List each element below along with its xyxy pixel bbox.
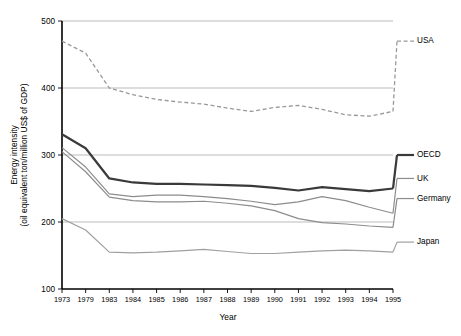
chart-legend: USAOECDUKGermanyJapan [393, 36, 452, 252]
x-tick-label: 1992 [314, 295, 330, 304]
legend-label-japan: Japan [417, 237, 440, 246]
legend-label-germany: Germany [417, 194, 452, 203]
x-tick-label: 1991 [290, 295, 306, 304]
x-tick-label: 1983 [101, 295, 117, 304]
x-tick-label: 1985 [148, 295, 164, 304]
x-tick-label: 1987 [196, 295, 212, 304]
x-tick-label: 1988 [219, 295, 235, 304]
y-tick-label: 200 [41, 218, 55, 227]
x-axis-title: Year [220, 312, 237, 322]
y-tick-label: 100 [41, 285, 55, 294]
x-tick-label: 1993 [338, 295, 354, 304]
y-tick-label: 400 [41, 84, 55, 93]
x-tick-label: 1986 [172, 295, 188, 304]
y-axis-title-line2: (oil equivalent ton/million US$ of GDP) [19, 83, 29, 226]
y-axis-title-line1: Energy intensity [9, 124, 19, 184]
y-tick-label: 500 [41, 17, 55, 26]
x-tick-label: 1984 [125, 295, 141, 304]
legend-label-uk: UK [417, 174, 429, 183]
x-tick-label: 1995 [385, 295, 401, 304]
x-axis-ticks: 1973197919831984198519861987198819891990… [54, 289, 401, 304]
energy-intensity-chart: 100200300400500 197319791983198419851986… [0, 0, 461, 336]
series-line-oecd [62, 134, 393, 191]
x-tick-label: 1989 [243, 295, 259, 304]
series-line-usa [62, 41, 393, 116]
legend-connector-japan [393, 242, 397, 252]
x-tick-label: 1994 [361, 295, 377, 304]
gridlines [62, 21, 393, 222]
y-axis-ticks: 100200300400500 [41, 17, 62, 294]
x-tick-label: 1990 [267, 295, 283, 304]
legend-label-usa: USA [417, 36, 434, 45]
x-tick-label: 1973 [54, 295, 70, 304]
y-tick-label: 300 [41, 151, 55, 160]
x-tick-label: 1979 [78, 295, 94, 304]
legend-label-oecd: OECD [417, 150, 441, 159]
chart-canvas: 100200300400500 197319791983198419851986… [0, 0, 461, 336]
legend-connector-usa [393, 41, 397, 111]
